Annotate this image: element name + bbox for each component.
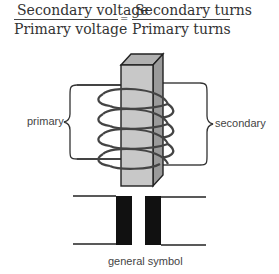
secondary-brace [200, 83, 213, 165]
primary-brace [64, 85, 77, 159]
secondary-label: secondary [215, 117, 266, 129]
symbol-caption: general symbol [108, 255, 183, 267]
transformer-symbol [73, 196, 206, 245]
transformer-diagram [0, 0, 279, 274]
primary-label: primary [27, 115, 64, 127]
